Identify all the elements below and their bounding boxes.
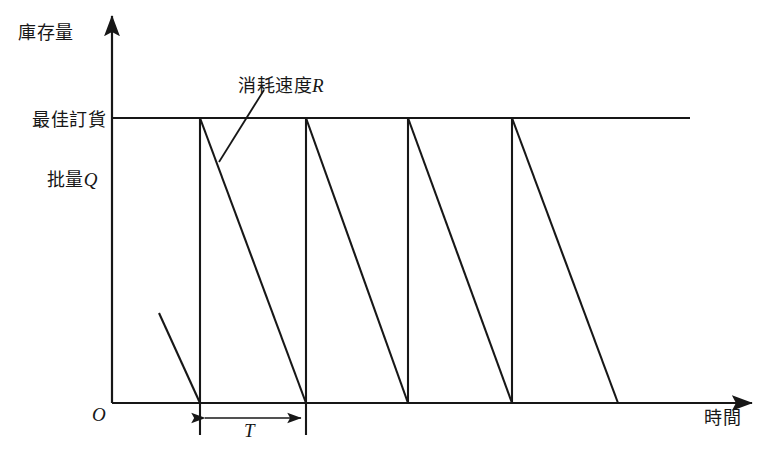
order-quantity-symbol: Q (84, 169, 98, 190)
consumption-rate-text: 消耗速度 (238, 75, 312, 96)
inventory-sawtooth-figure: 庫存量 最佳訂貨 批量Q 消耗速度R O T 時間 (0, 0, 780, 465)
order-quantity-label-line2-text: 批量 (47, 169, 84, 190)
depletion-line-4 (512, 118, 618, 403)
order-quantity-label-line2: 批量Q (8, 150, 106, 210)
origin-label: O (92, 404, 106, 426)
depletion-line-1 (200, 118, 306, 403)
x-axis-title: 時間 (704, 407, 741, 428)
consumption-rate-annotation: 消耗速度R (222, 56, 324, 116)
figure-canvas (0, 0, 780, 465)
order-quantity-label-line1: 最佳訂貨 (32, 109, 106, 130)
depletion-line-2 (306, 118, 408, 403)
consumption-rate-symbol: R (312, 75, 324, 96)
cycle-period-label: T (244, 420, 255, 442)
y-axis-title: 庫存量 (18, 22, 74, 43)
depletion-line-3 (408, 118, 512, 403)
order-quantity-label: 最佳訂貨 批量Q (8, 90, 106, 248)
depletion-line-0-partial (159, 313, 200, 403)
